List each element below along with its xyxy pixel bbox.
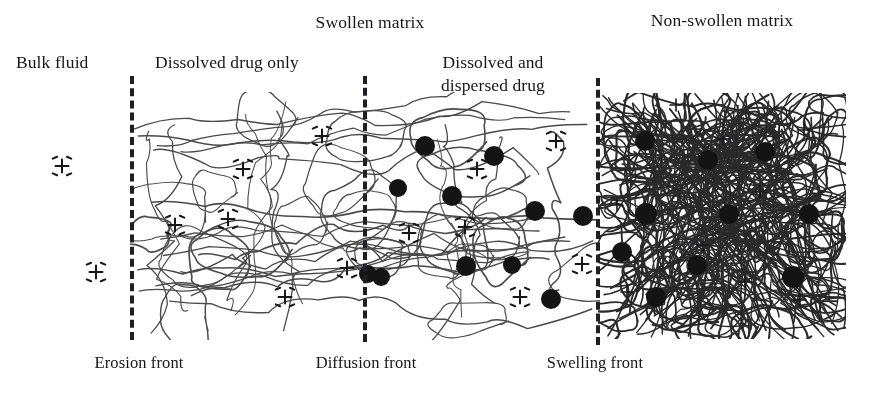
- dissolved-and-dispersed-drug-label: Dissolved and dispersed drug: [441, 52, 545, 96]
- dissolved-and-dispersed-drug-label-line2: dispersed drug: [441, 75, 545, 96]
- matrix-drug-release-diagram: Swollen matrix Non-swollen matrix Bulk f…: [0, 0, 873, 393]
- diffusion-front-label: Diffusion front: [316, 353, 417, 373]
- diffusion-front-line: [363, 76, 367, 342]
- erosion-front-line: [130, 76, 134, 340]
- swollen-matrix-label: Swollen matrix: [316, 12, 425, 33]
- non-swollen-matrix-label: Non-swollen matrix: [651, 10, 793, 31]
- dissolved-drug-only-label: Dissolved drug only: [155, 52, 299, 73]
- swelling-front-label: Swelling front: [547, 353, 643, 373]
- bulk-fluid-label: Bulk fluid: [16, 52, 88, 73]
- dissolved-and-dispersed-drug-label-line1: Dissolved and: [443, 52, 544, 72]
- erosion-front-label: Erosion front: [95, 353, 184, 373]
- swelling-front-line: [596, 78, 600, 345]
